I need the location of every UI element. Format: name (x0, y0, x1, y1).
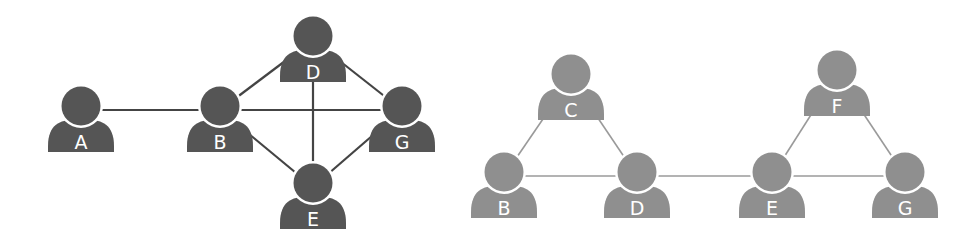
person-head-icon (201, 87, 240, 126)
person-node-c: C (538, 52, 604, 121)
person-head-icon (552, 55, 591, 94)
connected-graph: ABDGE (48, 14, 435, 230)
node-label: G (898, 197, 913, 219)
node-label: A (75, 131, 88, 153)
person-node-b: B (471, 150, 537, 219)
node-label: G (395, 131, 410, 153)
node-label: D (306, 61, 321, 83)
node-label: D (630, 197, 645, 219)
person-node-b: B (187, 84, 253, 153)
node-label: E (766, 197, 778, 219)
person-node-a: A (48, 84, 114, 153)
node-label: C (564, 99, 577, 121)
person-head-icon (62, 87, 101, 126)
person-head-icon (294, 17, 333, 56)
person-head-icon (818, 51, 857, 90)
community-graph: CFBDEG (471, 48, 938, 219)
node-label: B (213, 131, 226, 153)
person-head-icon (618, 153, 657, 192)
person-head-icon (294, 164, 333, 203)
node-label: F (832, 95, 843, 117)
person-node-g: G (369, 84, 435, 153)
person-head-icon (886, 153, 925, 192)
edges (81, 40, 402, 187)
person-node-d: D (604, 150, 670, 219)
person-node-d: D (280, 14, 346, 83)
network-diagrams: ABDGE CFBDEG (0, 0, 980, 241)
node-label: E (307, 208, 319, 230)
person-node-e: E (739, 150, 805, 219)
person-node-f: F (804, 48, 870, 117)
person-head-icon (485, 153, 524, 192)
person-head-icon (753, 153, 792, 192)
person-node-e: E (280, 161, 346, 230)
node-label: B (497, 197, 510, 219)
person-node-g: G (872, 150, 938, 219)
person-head-icon (383, 87, 422, 126)
